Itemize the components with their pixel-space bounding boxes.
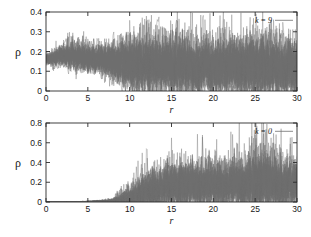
bottom-ytick-1: 0.2 bbox=[30, 177, 42, 187]
bottom-ytick-2: 0.4 bbox=[30, 158, 42, 168]
bottom-ytick-4: 0.8 bbox=[30, 118, 42, 128]
bottom-y-axis-label: ρ bbox=[15, 156, 21, 170]
bottom-panel-legend: k = 0 bbox=[255, 127, 293, 136]
bottom-xtick-1: 5 bbox=[85, 204, 90, 214]
top-ytick-2: 0.2 bbox=[30, 47, 42, 57]
figure-container: 0 0.1 0.2 0.3 0.4 0 5 10 15 20 25 30 ρ r… bbox=[0, 0, 311, 237]
top-y-axis-label: ρ bbox=[15, 45, 21, 59]
bottom-x-axis-label: r bbox=[170, 215, 174, 226]
bottom-ytick-3: 0.6 bbox=[30, 138, 42, 148]
top-xtick-3: 15 bbox=[167, 93, 177, 103]
bottom-xtick-3: 15 bbox=[167, 204, 177, 214]
top-ytick-4: 0.4 bbox=[30, 7, 42, 17]
top-xtick-2: 10 bbox=[125, 93, 135, 103]
bottom-xtick-0: 0 bbox=[44, 204, 49, 214]
bottom-legend-label: k = 0 bbox=[255, 127, 272, 136]
plot-svg: 0 0.1 0.2 0.3 0.4 0 5 10 15 20 25 30 ρ r… bbox=[0, 0, 311, 237]
top-ytick-0: 0 bbox=[37, 86, 42, 96]
bottom-panel: 0 0.2 0.4 0.6 0.8 0 5 10 15 20 25 30 ρ r… bbox=[15, 118, 302, 226]
top-xtick-1: 5 bbox=[85, 93, 90, 103]
bottom-xtick-2: 10 bbox=[125, 204, 135, 214]
bottom-xtick-6: 30 bbox=[292, 204, 302, 214]
bottom-ytick-0: 0 bbox=[37, 197, 42, 207]
top-panel-legend: k = 9 bbox=[255, 16, 293, 25]
bottom-xtick-4: 20 bbox=[209, 204, 219, 214]
top-panel: 0 0.1 0.2 0.3 0.4 0 5 10 15 20 25 30 ρ r… bbox=[15, 7, 302, 115]
top-xtick-4: 20 bbox=[209, 93, 219, 103]
top-ytick-3: 0.3 bbox=[30, 27, 42, 37]
top-legend-label: k = 9 bbox=[255, 16, 272, 25]
top-xtick-0: 0 bbox=[44, 93, 49, 103]
top-x-axis-label: r bbox=[170, 104, 174, 115]
top-ytick-1: 0.1 bbox=[30, 66, 42, 76]
top-xtick-6: 30 bbox=[292, 93, 302, 103]
bottom-xtick-5: 25 bbox=[250, 204, 260, 214]
top-xtick-5: 25 bbox=[250, 93, 260, 103]
